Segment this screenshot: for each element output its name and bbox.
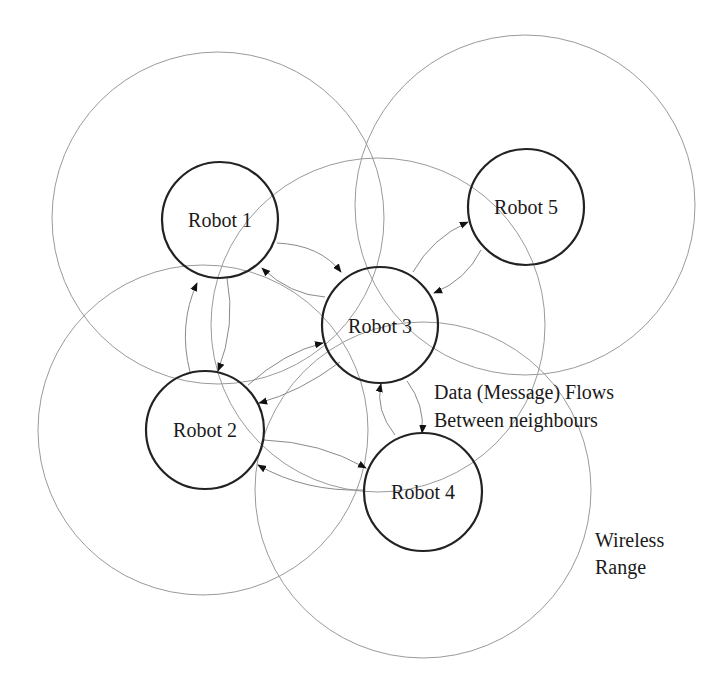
flow-arrow-r4-to-r3	[380, 384, 395, 435]
robot-node-1: Robot 1	[162, 162, 278, 278]
flow-arrow-r1-to-r2	[218, 278, 230, 371]
robot-node-2: Robot 2	[146, 371, 264, 489]
flow-arrow-r3-to-r1	[262, 268, 325, 297]
flow-arrow-r3-to-r2	[259, 362, 340, 403]
flow-arrow-r2-to-r1	[185, 283, 197, 372]
robot-label-1: Robot 1	[188, 209, 252, 231]
range-annotation-line-2: Range	[595, 556, 646, 579]
robot-network-diagram: Robot 1 Robot 2 Robot 3 Robot 4 Robot 5 …	[0, 0, 718, 685]
message-flows	[185, 222, 481, 490]
robot-label-2: Robot 2	[173, 419, 237, 441]
flow-arrow-r2-to-r4	[264, 440, 366, 468]
range-annotation: Wireless Range	[595, 529, 664, 579]
robot-label-4: Robot 4	[391, 481, 455, 503]
flow-arrow-r3-to-r5	[413, 222, 468, 272]
flow-arrow-r5-to-r3	[434, 250, 481, 293]
robot-node-3: Robot 3	[322, 267, 438, 383]
range-annotation-line-1: Wireless	[595, 529, 664, 551]
flow-arrow-r3-to-r4	[407, 381, 422, 433]
robot-label-5: Robot 5	[494, 196, 558, 218]
flows-annotation-line-1: Data (Message) Flows	[434, 381, 614, 404]
robot-label-3: Robot 3	[348, 315, 412, 337]
flow-arrow-r1-to-r3	[277, 243, 341, 272]
flows-annotation-line-2: Between neighbours	[434, 409, 598, 432]
